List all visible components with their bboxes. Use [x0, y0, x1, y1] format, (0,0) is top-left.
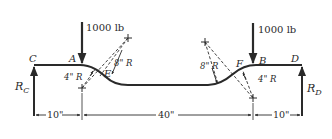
right-load-label: 1000 lb [258, 24, 296, 35]
left-upper-center-mark [124, 34, 132, 42]
left-reaction-label: RC [14, 80, 29, 95]
point-a-label: A [68, 53, 76, 64]
right-lower-center-mark [249, 94, 257, 102]
middle-dimension-label: 40" [158, 109, 174, 120]
point-e-label: E [103, 68, 112, 79]
point-f-label: F [235, 58, 244, 69]
left-load-label: 1000 lb [86, 22, 124, 33]
right-small-radius-label: 4" R [257, 74, 277, 84]
beam-diagram: 1000 lb 1000 lb RC RD C A E F B D [0, 0, 332, 139]
left-lower-center-mark [78, 84, 86, 92]
right-small-radius-line [243, 71, 253, 98]
right-upper-center-mark [201, 38, 209, 46]
right-large-radius-label: 8" R [200, 61, 219, 71]
left-small-radius-line [82, 68, 96, 88]
right-reaction-label: RD [306, 82, 322, 97]
right-dimension-label: 10" [273, 109, 289, 120]
point-b-label: B [258, 55, 266, 66]
left-large-radius-label: 8" R [114, 58, 133, 68]
left-small-radius-label: 4" R [63, 72, 83, 82]
left-dimension-label: 10" [47, 109, 63, 120]
point-d-label: D [290, 53, 299, 64]
point-c-label: C [29, 53, 37, 64]
